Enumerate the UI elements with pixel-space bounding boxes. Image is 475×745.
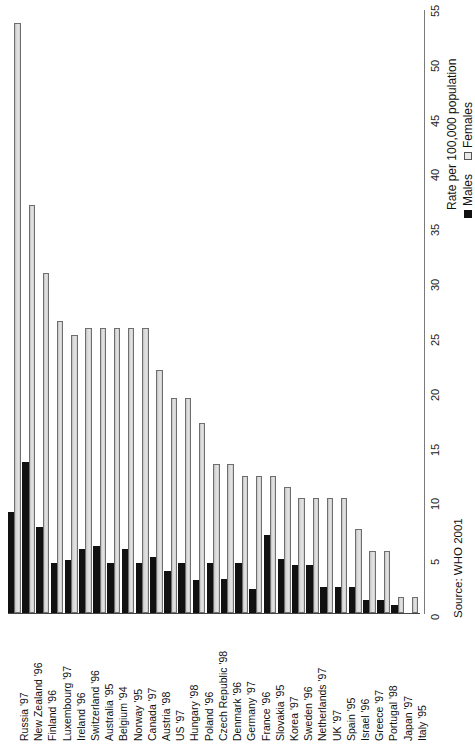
bar-female — [213, 464, 219, 613]
legend-swatch-females-icon — [464, 152, 472, 160]
bar-female — [270, 476, 276, 613]
category-label-slot: Poland '96 — [193, 616, 205, 744]
bar-group — [36, 10, 50, 613]
plot-area — [8, 10, 420, 613]
category-label-slot: Australia '95 — [93, 616, 105, 744]
category-label-slot: Belgium '94 — [107, 616, 119, 744]
bar-female — [14, 23, 20, 613]
chart-legend: Males Females — [461, 102, 475, 218]
bar-female — [341, 498, 347, 613]
bar-group — [122, 10, 136, 613]
category-label-slot: Slovakia '95 — [264, 616, 276, 744]
bar-female — [57, 321, 63, 613]
category-label-slot: Korea '97 — [278, 616, 290, 744]
category-label-slot: Norway '95 — [122, 616, 134, 744]
bar-group — [79, 10, 93, 613]
bar-female — [114, 328, 120, 613]
bar-group — [8, 10, 22, 613]
bar-group — [406, 10, 420, 613]
value-axis-tick: 25 — [428, 306, 442, 346]
bar-group — [306, 10, 320, 613]
category-label-slot: Sweden '96 — [292, 616, 304, 744]
category-label-slot: Austria '98 — [150, 616, 162, 744]
bar-female — [29, 205, 35, 613]
chart-figure: 0510152025303540455055 Russia '97New Zea… — [0, 0, 475, 745]
category-label-slot: Portugal '98 — [377, 616, 389, 744]
source-note: Source: WHO 2001 — [452, 518, 464, 618]
category-label-slot: Netherlands '97 — [306, 616, 318, 744]
bar-female — [327, 498, 333, 613]
category-label-slot: UK '97 — [321, 616, 333, 744]
bar-group — [264, 10, 278, 613]
bar-female — [227, 464, 233, 613]
category-label-slot: Israel '96 — [349, 616, 361, 744]
value-axis-tick: 50 — [428, 32, 442, 72]
value-axis-tick: 5 — [428, 525, 442, 565]
category-label-slot: France '96 — [250, 616, 262, 744]
bar-group — [22, 10, 36, 613]
bar-female — [43, 273, 49, 613]
bar-female — [313, 498, 319, 613]
bar-female — [100, 328, 106, 613]
category-label-slot: Italy '95 — [406, 616, 418, 744]
bar-female — [142, 328, 148, 613]
bar-group — [51, 10, 65, 613]
value-axis-tick: 0 — [428, 580, 442, 620]
bar-group — [292, 10, 306, 613]
bar-female — [384, 551, 390, 613]
bar-group — [278, 10, 292, 613]
category-label: Italy '95 — [417, 705, 428, 741]
bar-group — [335, 10, 349, 613]
legend-label-males: Males — [461, 174, 475, 206]
category-label-slot: Czech Republic '98 — [207, 616, 219, 744]
value-axis-line — [424, 10, 425, 614]
bar-female — [412, 597, 418, 613]
bar-group — [150, 10, 164, 613]
bar-group — [235, 10, 249, 613]
legend-label-females: Females — [461, 102, 475, 148]
category-label-slot: Japan '97 — [392, 616, 404, 744]
legend-entry-males: Males — [461, 174, 475, 218]
bar-female — [171, 398, 177, 613]
bar-group — [320, 10, 334, 613]
value-axis-tick: 15 — [428, 416, 442, 456]
category-label-slot: Ireland '96 — [65, 616, 77, 744]
category-label-slot: Denmark '96 — [221, 616, 233, 744]
bar-female — [284, 487, 290, 613]
bar-female — [156, 370, 162, 613]
legend-swatch-males-icon — [464, 210, 472, 218]
bar-female — [185, 398, 191, 613]
bar-group — [107, 10, 121, 613]
category-label-slot: Luxembourg '97 — [51, 616, 63, 744]
bar-series-container — [8, 10, 420, 613]
bar-group — [193, 10, 207, 613]
value-axis-title: Rate per 100,000 population — [445, 59, 459, 210]
bar-female — [199, 423, 205, 613]
category-label-slot: Germany '97 — [235, 616, 247, 744]
category-label-slot: Switzerland '96 — [79, 616, 91, 744]
bar-female — [128, 328, 134, 613]
value-axis-tick: 55 — [428, 0, 442, 17]
category-axis-labels: Russia '97New Zealand '96Finland '96Luxe… — [8, 616, 420, 744]
category-label-slot: Canada '97 — [136, 616, 148, 744]
value-axis-tick: 45 — [428, 87, 442, 127]
bar-group — [93, 10, 107, 613]
bar-female — [298, 498, 304, 613]
category-label-slot: Russia '97 — [8, 616, 20, 744]
value-axis-tick: 10 — [428, 470, 442, 510]
bar-group — [164, 10, 178, 613]
category-label-slot: New Zealand '96 — [22, 616, 34, 744]
value-axis-tick: 40 — [428, 141, 442, 181]
bar-group — [249, 10, 263, 613]
category-label-slot: US '97 — [164, 616, 176, 744]
legend-entry-females: Females — [461, 102, 475, 160]
bar-group — [221, 10, 235, 613]
bar-group — [65, 10, 79, 613]
bar-group — [207, 10, 221, 613]
bar-group — [391, 10, 405, 613]
bar-female — [256, 476, 262, 613]
bar-female — [71, 335, 77, 613]
value-axis-tick: 30 — [428, 251, 442, 291]
value-axis-tick: 35 — [428, 196, 442, 236]
value-axis-tick: 20 — [428, 361, 442, 401]
